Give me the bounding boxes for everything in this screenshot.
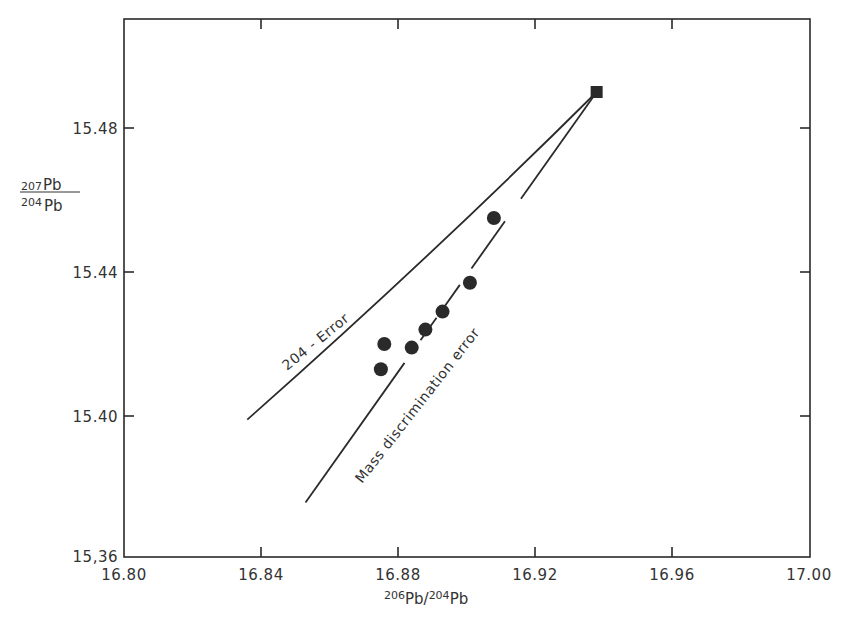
x-label-base1: Pb/ [405,590,430,608]
y-label-num-sup: 207 [21,180,42,193]
chart: 16.8016.8416.8816.9216.9617.00 15,3615.4… [0,0,850,626]
svg-text:204Pb: 204Pb [21,196,63,215]
y-label-num-base: Pb [43,176,62,194]
sample-point [405,341,419,355]
data-points [374,86,603,376]
x-label-base2: Pb [450,590,469,608]
sample-point [436,305,450,319]
x-tick-label: 16.92 [512,566,557,584]
x-label-sup2: 204 [429,589,450,602]
x-axis-label: 206Pb/204Pb [384,589,468,608]
y-label-den-base: Pb [44,197,63,215]
reference-square [591,86,603,98]
x-tick-label: 16.88 [375,566,420,584]
x-tick-label: 16.80 [101,566,146,584]
y-axis-label: 207Pb 204Pb [20,176,80,215]
x-label-sup1: 206 [384,589,405,602]
y-axis-tick-labels: 15,3615.4015.4415.48 [73,120,118,566]
mass-line-segment [471,221,504,268]
sample-point [377,337,391,351]
y-label-den-sup: 204 [21,196,42,209]
y-tick-label: 15.44 [73,264,118,282]
mass-line-segment [444,285,460,308]
204-error-line [247,92,596,420]
annotation-204-error: 204 - Error [279,310,352,374]
sample-point [463,276,477,290]
sample-point [418,323,432,337]
x-tick-label: 17.00 [786,566,831,584]
y-tick-label: 15.40 [73,408,118,426]
y-tick-label: 15,36 [73,548,118,566]
x-tick-label: 16.84 [238,566,283,584]
y-axis-ticks [124,128,810,416]
sample-point [374,362,388,376]
mass-discrimination-line [306,92,597,502]
svg-text:207Pb: 207Pb [21,176,62,194]
mass-line-segment [521,92,597,199]
sample-point [487,211,501,225]
x-axis-tick-labels: 16.8016.8416.8816.9216.9617.00 [101,566,831,584]
x-tick-label: 16.96 [649,566,694,584]
y-tick-label: 15.48 [73,120,118,138]
